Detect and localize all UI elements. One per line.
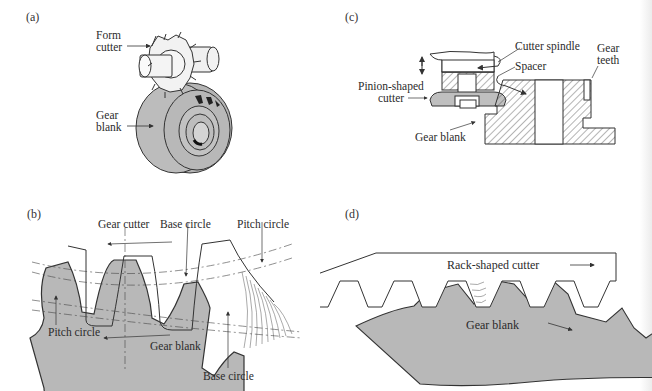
- base-circle-label-bottom: Base circle: [203, 370, 254, 382]
- gear-teeth-label-2: teeth: [597, 54, 619, 66]
- gear-blank-shape: [136, 83, 232, 173]
- cutter-spindle-label: Cutter spindle: [515, 40, 580, 52]
- pitch-circle-label-top: Pitch circle: [237, 218, 289, 230]
- panel-a-tag: (a): [26, 10, 39, 25]
- gear-blank-label: Gear blank: [415, 131, 466, 143]
- form-cutter-illustration: [0, 0, 320, 200]
- gear-teeth-label: Gear: [597, 42, 619, 54]
- rack-cutter-illustration: [320, 200, 652, 391]
- pitch-circle-label-left: Pitch circle: [48, 326, 100, 338]
- gear-blank-label: Gear blank: [466, 319, 519, 331]
- form-cutter-label-2: cutter: [96, 41, 122, 53]
- base-circle-label-top: Base circle: [160, 218, 211, 230]
- gear-blank-label: Gear blank: [150, 340, 201, 352]
- pinion-cutter-illustration: [320, 0, 652, 200]
- pinion-cutter-label-2: cutter: [378, 92, 404, 104]
- spacer-label: Spacer: [515, 60, 546, 72]
- gear-cutter-label: Gear cutter: [98, 218, 149, 230]
- panel-c-pinion-cutter: (c) Cutter spindle Spacer Gear teeth Pin…: [320, 0, 652, 200]
- gear-blank-label: Gear: [96, 109, 118, 121]
- panel-d-tag: (d): [345, 207, 359, 222]
- panel-a-form-cutter: (a) Form cutter Gear blank: [0, 0, 320, 200]
- panel-b-generating: (b) Gear cutter Base circle Pitch circle…: [0, 200, 320, 391]
- rack-cutter-label: Rack-shaped cutter: [447, 259, 539, 271]
- panel-b-tag: (b): [27, 207, 41, 222]
- form-cutter-label: Form: [96, 29, 121, 41]
- gear-blank-label-2: blank: [96, 121, 122, 133]
- panel-d-rack-cutter: (d) Rack-shaped cutter Gear blank: [320, 200, 652, 391]
- panel-c-tag: (c): [345, 10, 358, 25]
- pinion-cutter-label: Pinion-shaped: [358, 80, 424, 92]
